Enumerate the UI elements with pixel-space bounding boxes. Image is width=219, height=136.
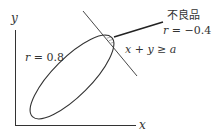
defect-title: 不良品 [167,8,200,22]
ellipse-correlation-value: = 0.8 [30,51,64,64]
correlation-diagram: y x r = 0.8 不良品 r = −0.4 x + y ≥ a [0,0,219,136]
y-axis-label: y [10,11,18,25]
ellipse-correlation-label: r = 0.8 [25,51,64,64]
boundary-condition-label: x + y ≥ a [125,43,176,56]
defect-correlation-label: r = −0.4 [163,24,211,37]
x-axis-label: x [139,118,146,132]
defect-pointer-arrow [114,22,163,37]
